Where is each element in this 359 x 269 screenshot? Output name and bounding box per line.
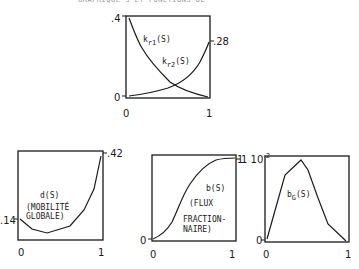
label-fraction: FRACTION-: [183, 215, 226, 224]
figure-canvas: .4 0 .28 0 1 kr1(S) kr2(S) .14 .42 0 1 d…: [0, 0, 359, 269]
curve-bg: [267, 160, 346, 241]
y-tick-left: .14: [0, 215, 16, 226]
y-tick-right: .28: [213, 36, 229, 47]
y-tick-right: .42: [107, 148, 123, 159]
label-kr1: kr1(S): [143, 35, 171, 47]
y-tick-left: 0: [140, 235, 146, 246]
label-b: b(S): [206, 184, 225, 193]
label-bg: bG(S): [287, 190, 311, 202]
x-tick-1: 1: [206, 108, 212, 119]
chart-bg: 1 10-2 0 0 1 bG(S): [241, 152, 351, 260]
label-kr2: kr2(S): [162, 57, 190, 69]
chart-fractional-flow: 0 1 0 1 b(S) (FLUX FRACTION- NAIRE): [140, 154, 243, 260]
x-tick-0: 0: [123, 108, 129, 119]
curve-d: [20, 156, 101, 233]
curve-kr1: [129, 18, 208, 97]
y-tick-bottom: 0: [114, 92, 120, 103]
label-mobilite: (MOBILITÉ: [26, 201, 70, 212]
x-tick-1: 1: [98, 247, 104, 258]
y-tick-bottom: 0: [256, 235, 262, 246]
label-naire: NAIRE): [183, 225, 212, 234]
label-globale: GLOBALE): [26, 212, 65, 221]
x-tick-1: 1: [345, 249, 351, 260]
chart-relative-permeability: .4 0 .28 0 1 kr1(S) kr2(S): [111, 13, 229, 119]
chart-global-mobility: .14 .42 0 1 d(S) (MOBILITÉ GLOBALE): [0, 148, 123, 258]
plot-frame: [126, 16, 210, 98]
x-tick-0: 0: [263, 249, 269, 260]
x-tick-0: 0: [18, 247, 24, 258]
curve-kr2: [129, 42, 209, 96]
x-tick-0: 0: [150, 249, 156, 260]
x-tick-1: 1: [229, 249, 235, 260]
label-flux: (FLUX: [189, 199, 213, 208]
y-tick-top: .4: [111, 13, 121, 24]
label-d: d(S): [40, 191, 59, 200]
y-tick-top: 1 10-2: [241, 152, 270, 165]
